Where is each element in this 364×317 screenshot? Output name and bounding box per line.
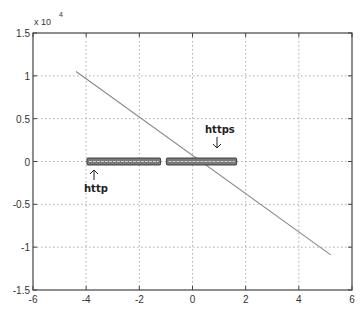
https-annotation: https xyxy=(205,124,235,148)
y-tick-label: 1 xyxy=(24,71,30,82)
x-tick-label: 6 xyxy=(349,294,355,305)
chart: -6-4-20246 -1.5-1-0.500.511.5 x 10 4 htt… xyxy=(0,0,364,317)
x-tick-label: 2 xyxy=(243,294,249,305)
http-label: http xyxy=(84,183,108,194)
y-tick-label: -1.5 xyxy=(13,285,31,296)
y-tick-label: 1.5 xyxy=(16,28,30,39)
arrow-down-icon xyxy=(213,137,221,148)
data-series xyxy=(76,72,331,255)
https-label: https xyxy=(205,124,235,135)
x-axis-tick-labels: -6-4-20246 xyxy=(29,294,356,305)
x-tick-label: -2 xyxy=(135,294,144,305)
x-tick-label: 4 xyxy=(296,294,302,305)
arrow-up-icon xyxy=(90,170,98,180)
http-annotation: http xyxy=(84,170,108,194)
y-tick-label: -0.5 xyxy=(13,199,31,210)
x-tick-label: 0 xyxy=(190,294,196,305)
x-tick-label: -4 xyxy=(82,294,91,305)
y-tick-label: 0.5 xyxy=(16,114,30,125)
y-multiplier-exponent: 4 xyxy=(59,11,63,18)
y-axis-tick-labels: -1.5-1-0.500.511.5 xyxy=(13,28,31,296)
y-tick-label: -1 xyxy=(21,242,30,253)
y-multiplier-label: x 10 xyxy=(34,17,51,27)
y-tick-label: 0 xyxy=(24,157,30,168)
